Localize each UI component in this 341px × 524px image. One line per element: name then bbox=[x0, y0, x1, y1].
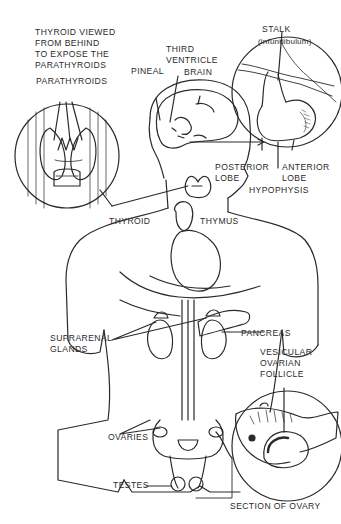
hypophysis-inset bbox=[232, 32, 341, 168]
thymus-gland bbox=[175, 202, 193, 231]
label-thyroid-behind: THYROID VIEWED FROM BEHIND TO EXPOSE THE… bbox=[35, 27, 116, 71]
label-testes: TESTES bbox=[113, 480, 149, 491]
label-thyroid: THYROID bbox=[109, 216, 150, 227]
label-stalk: STALK bbox=[262, 24, 291, 35]
thyroid-rear-inset bbox=[15, 102, 119, 208]
label-ovaries: OVARIES bbox=[108, 432, 148, 443]
label-parathyroids: PARATHYROIDS bbox=[36, 76, 107, 87]
label-thymus: THYMUS bbox=[200, 216, 239, 227]
label-pancreas: PANCREAS bbox=[241, 328, 291, 339]
heart-outline bbox=[171, 230, 220, 291]
label-section-of-ovary: SECTION OF OVARY bbox=[230, 501, 321, 512]
label-hypophysis: HYPOPHYSIS bbox=[249, 185, 309, 196]
body-outline bbox=[58, 80, 318, 492]
reproductive-organs bbox=[153, 420, 223, 491]
anterior-lobe-pointer bbox=[292, 140, 294, 150]
label-suprarenal-glands: SUPRARENAL GLANDS bbox=[50, 333, 112, 355]
label-posterior-lobe: POSTERIOR LOBE bbox=[215, 162, 269, 184]
brain-pointer bbox=[198, 96, 200, 104]
brain bbox=[156, 90, 238, 148]
label-brain: BRAIN bbox=[184, 67, 212, 78]
label-infundibulum: (infundibulum) bbox=[258, 36, 312, 47]
kidneys bbox=[148, 310, 226, 359]
label-pineal: PINEAL bbox=[131, 66, 164, 77]
label-vesicular-follicle: VESICULAR OVARIAN FOLLICLE bbox=[260, 347, 312, 380]
thyroid-pointer bbox=[112, 186, 188, 206]
thyroid-gland bbox=[185, 176, 211, 197]
label-third-ventricle: THIRD VENTRICLE bbox=[166, 44, 218, 66]
third-ventricle-pointer bbox=[170, 76, 178, 122]
ovary-section-inset bbox=[232, 388, 341, 501]
label-anterior-lobe: ANTERIOR LOBE bbox=[282, 162, 330, 184]
